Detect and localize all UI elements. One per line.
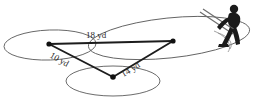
ellipse-bottom bbox=[66, 66, 160, 96]
ellipse-group bbox=[4, 10, 252, 96]
vertex-left bbox=[46, 41, 51, 46]
vertex-right bbox=[170, 38, 175, 43]
side-label-group: 18 yd 10 yd 14 yd bbox=[48, 30, 142, 79]
club-shaft-secondary-icon bbox=[200, 12, 233, 34]
golfer-foot-icon bbox=[218, 44, 229, 47]
diagram-canvas: 18 yd 10 yd 14 yd bbox=[0, 0, 258, 102]
figure-container: 18 yd 10 yd 14 yd bbox=[0, 0, 258, 102]
side-label-18yd: 18 yd bbox=[86, 30, 107, 40]
golfer-silhouette bbox=[200, 5, 240, 52]
vertex-bottom bbox=[110, 74, 116, 80]
golfer-back-leg-icon bbox=[232, 27, 240, 45]
golfer-head-icon bbox=[230, 5, 238, 13]
triangle-side-top bbox=[49, 41, 173, 44]
